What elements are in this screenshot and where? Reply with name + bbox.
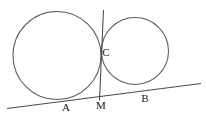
large-circle bbox=[13, 12, 101, 100]
label-point-m: M bbox=[96, 99, 106, 111]
label-point-b: B bbox=[141, 92, 148, 104]
geometry-figure-canvas: A B C M bbox=[0, 0, 206, 121]
small-circle bbox=[102, 18, 169, 85]
label-point-c: C bbox=[102, 46, 109, 58]
label-point-a: A bbox=[62, 101, 70, 113]
geometry-diagram: A B C M bbox=[0, 0, 206, 121]
